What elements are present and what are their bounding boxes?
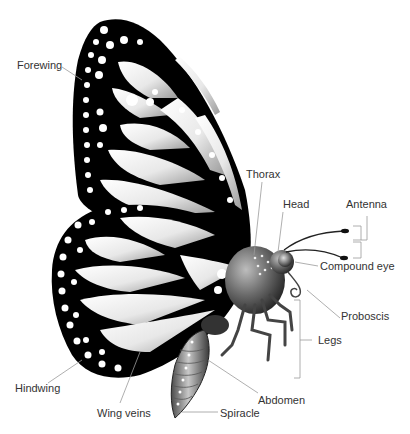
label-compound-eye: Compound eye — [320, 260, 395, 273]
label-abdomen: Abdomen — [258, 394, 305, 407]
label-spiracle: Spiracle — [220, 407, 260, 420]
hindwing — [52, 205, 251, 378]
label-proboscis: Proboscis — [341, 310, 389, 323]
label-forewing: Forewing — [17, 59, 62, 72]
label-thorax: Thorax — [246, 168, 280, 181]
label-antenna: Antenna — [346, 198, 387, 211]
label-wing-veins: Wing veins — [97, 407, 151, 420]
label-hindwing: Hindwing — [15, 382, 60, 395]
label-head: Head — [283, 198, 309, 211]
label-legs: Legs — [318, 334, 342, 347]
